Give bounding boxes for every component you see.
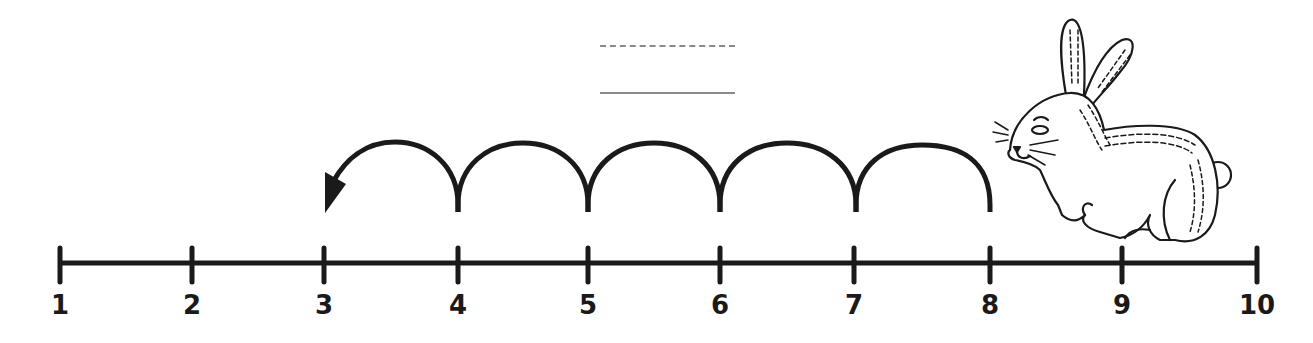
jump-8-to-7 <box>856 145 990 212</box>
tick-label-10: 10 <box>1239 292 1275 318</box>
tick-label-9: 9 <box>1113 292 1131 318</box>
rabbit-icon <box>993 20 1231 242</box>
tick-label-8: 8 <box>981 292 999 318</box>
jump-5-to-4 <box>458 143 588 212</box>
tick-label-5: 5 <box>579 292 597 318</box>
tick-label-6: 6 <box>711 292 729 318</box>
jump-arcs <box>333 142 990 212</box>
jump-6-to-5 <box>588 143 720 212</box>
jump-7-to-6 <box>720 143 856 212</box>
tick-label-2: 2 <box>183 292 201 318</box>
tick-label-7: 7 <box>845 292 863 318</box>
tick-label-3: 3 <box>315 292 333 318</box>
tick-label-4: 4 <box>449 292 467 318</box>
tick-label-1: 1 <box>51 292 69 318</box>
arrowhead-icon <box>325 172 346 213</box>
jump-4-to-3 <box>333 142 458 212</box>
